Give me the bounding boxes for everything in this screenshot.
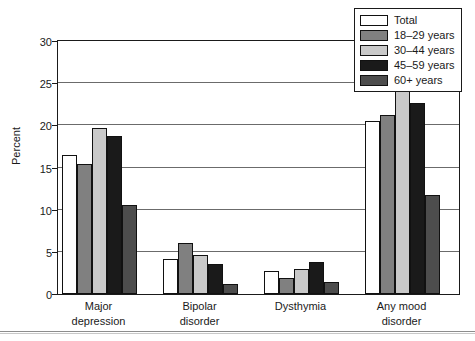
legend-item-label: 18–29 years — [394, 29, 455, 41]
legend-item-label: 30–44 years — [394, 44, 455, 56]
x-axis-category-label-line: Any mood — [352, 299, 452, 314]
y-axis-tick-mark — [52, 83, 57, 84]
bar — [178, 243, 193, 294]
y-axis-tick-mark — [52, 252, 57, 253]
bar — [264, 271, 279, 294]
bar — [309, 262, 324, 294]
bar — [208, 264, 223, 294]
x-axis-category-label-line: disorder — [150, 314, 250, 329]
bar — [425, 195, 440, 295]
bar-group — [163, 41, 238, 294]
legend-item: 18–29 years — [360, 28, 455, 42]
bar-group — [62, 41, 137, 294]
bar — [193, 255, 208, 294]
bar — [107, 136, 122, 294]
x-axis-category-label: Dysthymia — [251, 299, 351, 314]
x-axis-category-label-line: Bipolar — [150, 299, 250, 314]
chart-legend: Total18–29 years30–44 years45–59 years60… — [354, 8, 462, 92]
y-axis-tick-label: 25 — [26, 79, 52, 90]
bar — [365, 121, 380, 294]
x-axis-category-label: Majordepression — [49, 299, 149, 329]
legend-item-label: 45–59 years — [394, 59, 455, 71]
x-axis-category-label-line: depression — [49, 314, 149, 329]
bar — [223, 284, 238, 294]
x-axis-category-label-line: Dysthymia — [251, 299, 351, 314]
legend-item-label: 60+ years — [394, 74, 443, 86]
y-axis-tick-label: 15 — [26, 164, 52, 175]
x-axis-category-label: Any mooddisorder — [352, 299, 452, 329]
legend-swatch-icon — [360, 60, 388, 71]
legend-item: Total — [360, 13, 455, 27]
bar-group — [264, 41, 339, 294]
legend-item-label: Total — [394, 14, 417, 26]
x-axis-category-labels: MajordepressionBipolardisorderDysthymiaA… — [57, 299, 460, 335]
y-axis-tick-mark — [52, 294, 57, 295]
bar — [324, 282, 339, 294]
bar — [92, 128, 107, 294]
legend-item: 60+ years — [360, 73, 455, 87]
bar — [294, 269, 309, 294]
bar — [410, 103, 425, 294]
bar — [279, 278, 294, 294]
x-axis-category-label-line: Major — [49, 299, 149, 314]
y-axis-title: Percent — [10, 106, 22, 186]
y-axis-tick-mark — [52, 168, 57, 169]
bar — [77, 164, 92, 294]
y-axis-tick-label: 20 — [26, 121, 52, 132]
y-axis-tick-label: 30 — [26, 37, 52, 48]
legend-swatch-icon — [360, 45, 388, 56]
bar — [395, 87, 410, 294]
x-axis-category-label: Bipolardisorder — [150, 299, 250, 329]
legend-swatch-icon — [360, 75, 388, 86]
bar — [62, 155, 77, 294]
y-axis-tick-label: 10 — [26, 206, 52, 217]
y-axis-tick-mark — [52, 125, 57, 126]
legend-swatch-icon — [360, 15, 388, 26]
y-axis-ticks: 051015202530 — [22, 40, 52, 295]
legend-item: 30–44 years — [360, 43, 455, 57]
bar — [380, 115, 395, 294]
bar — [163, 259, 178, 294]
legend-item: 45–59 years — [360, 58, 455, 72]
bar-chart-figure: 051015202530 Percent MajordepressionBipo… — [0, 0, 475, 341]
footer-rule — [0, 331, 475, 332]
y-axis-tick-mark — [52, 41, 57, 42]
x-axis-category-label-line: disorder — [352, 314, 452, 329]
bar — [122, 205, 137, 294]
legend-swatch-icon — [360, 30, 388, 41]
y-axis-tick-mark — [52, 210, 57, 211]
footer-rule-secondary — [0, 333, 475, 334]
y-axis-tick-label: 5 — [26, 248, 52, 259]
